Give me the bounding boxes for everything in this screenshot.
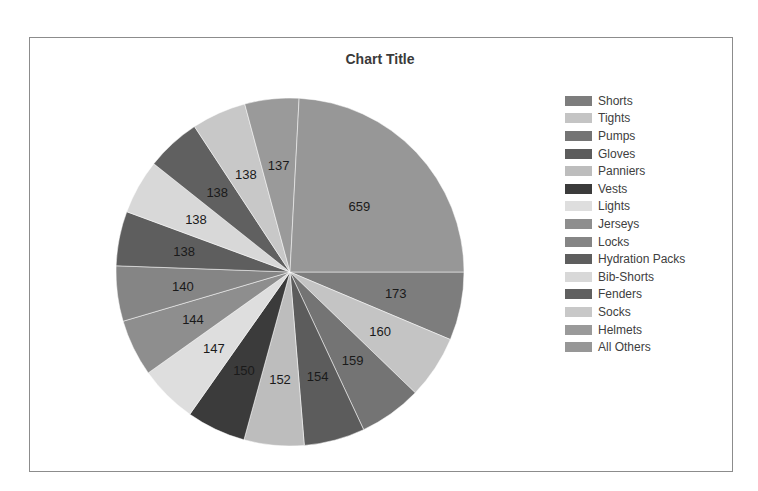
data-label: 138 xyxy=(173,244,195,259)
legend-swatch xyxy=(565,219,592,229)
legend-swatch xyxy=(565,131,592,141)
legend-swatch xyxy=(565,307,592,317)
legend-item: Tights xyxy=(565,110,685,128)
legend-item: Jerseys xyxy=(565,215,685,233)
legend-item: Panniers xyxy=(565,162,685,180)
legend-swatch xyxy=(565,113,592,123)
legend-swatch xyxy=(565,289,592,299)
legend-label: Vests xyxy=(598,182,627,196)
legend-label: All Others xyxy=(598,340,651,354)
legend-label: Socks xyxy=(598,305,631,319)
legend: ShortsTightsPumpsGlovesPanniersVestsLigh… xyxy=(565,92,685,356)
chart-area: Chart Title 1731601591541521501471441401… xyxy=(29,37,733,472)
data-label: 138 xyxy=(235,167,257,182)
legend-swatch xyxy=(565,96,592,106)
data-label: 152 xyxy=(269,372,291,387)
legend-swatch xyxy=(565,184,592,194)
legend-swatch xyxy=(565,201,592,211)
legend-item: Lights xyxy=(565,198,685,216)
data-label: 138 xyxy=(185,212,207,227)
data-label: 160 xyxy=(369,324,391,339)
legend-label: Fenders xyxy=(598,287,642,301)
data-label: 150 xyxy=(233,363,255,378)
legend-label: Shorts xyxy=(598,94,633,108)
data-label: 137 xyxy=(268,158,290,173)
pie-slice-all-others xyxy=(290,98,464,272)
legend-swatch xyxy=(565,237,592,247)
legend-label: Lights xyxy=(598,199,630,213)
legend-swatch xyxy=(565,149,592,159)
data-label: 147 xyxy=(203,341,225,356)
legend-label: Panniers xyxy=(598,164,645,178)
legend-item: All Others xyxy=(565,338,685,356)
legend-swatch xyxy=(565,342,592,352)
legend-label: Locks xyxy=(598,235,629,249)
legend-label: Hydration Packs xyxy=(598,252,685,266)
data-label: 140 xyxy=(172,279,194,294)
legend-item: Vests xyxy=(565,180,685,198)
data-label: 138 xyxy=(206,185,228,200)
legend-item: Gloves xyxy=(565,145,685,163)
data-label: 159 xyxy=(342,353,364,368)
legend-item: Fenders xyxy=(565,286,685,304)
legend-item: Helmets xyxy=(565,321,685,339)
legend-item: Shorts xyxy=(565,92,685,110)
data-label: 173 xyxy=(385,286,407,301)
legend-swatch xyxy=(565,166,592,176)
legend-item: Pumps xyxy=(565,127,685,145)
legend-label: Tights xyxy=(598,111,630,125)
legend-item: Hydration Packs xyxy=(565,250,685,268)
legend-label: Gloves xyxy=(598,147,635,161)
legend-item: Bib-Shorts xyxy=(565,268,685,286)
legend-swatch xyxy=(565,272,592,282)
legend-swatch xyxy=(565,325,592,335)
legend-item: Locks xyxy=(565,233,685,251)
legend-label: Pumps xyxy=(598,129,635,143)
legend-swatch xyxy=(565,254,592,264)
data-label: 659 xyxy=(349,199,371,214)
legend-item: Socks xyxy=(565,303,685,321)
data-label: 144 xyxy=(182,312,204,327)
legend-label: Bib-Shorts xyxy=(598,270,654,284)
legend-label: Helmets xyxy=(598,323,642,337)
data-label: 154 xyxy=(307,369,329,384)
legend-label: Jerseys xyxy=(598,217,639,231)
